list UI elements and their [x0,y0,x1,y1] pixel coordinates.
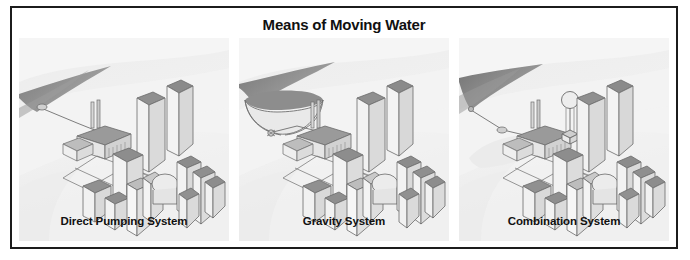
illustration-direct-pumping-system [19,38,229,241]
illustration-gravity-system [239,38,449,241]
panel-caption-direct-pumping: Direct Pumping System [19,215,229,227]
panel-combination[interactable]: Combination System [459,38,669,241]
figure-title: Means of Moving Water [12,16,676,33]
panel-direct-pumping[interactable]: Direct Pumping System [19,38,229,241]
figure-frame: Means of Moving Water [10,6,678,249]
illustration-combination-system [459,38,669,241]
panel-caption-gravity: Gravity System [239,215,449,227]
panel-row: Direct Pumping System [19,38,669,241]
panel-caption-combination: Combination System [459,215,669,227]
panel-gravity[interactable]: Gravity System [239,38,449,241]
